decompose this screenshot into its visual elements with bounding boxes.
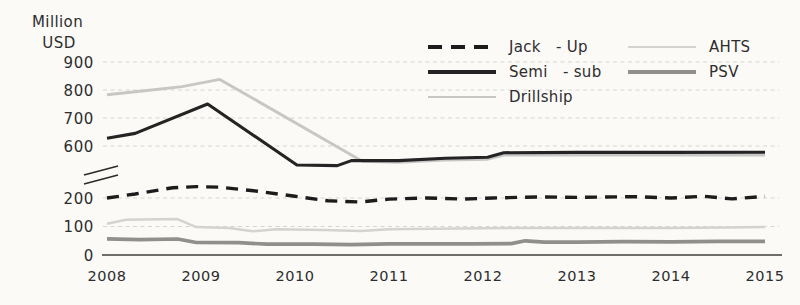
axis-break-mark-2 (84, 175, 118, 184)
y-axis-unit-line-2: USD (24, 34, 94, 52)
y-tick-label-700: 700 (64, 110, 94, 128)
x-tick-label-2013: 2013 (558, 268, 597, 284)
y-tick-label-900: 900 (64, 54, 94, 72)
x-tick-label-2009: 2009 (182, 268, 221, 284)
y-tick-label-0: 0 (84, 247, 94, 265)
y-tick-label-600: 600 (64, 138, 94, 156)
chart-canvas: 9008007006002001000200820092010201120122… (0, 0, 800, 305)
x-tick-label-2014: 2014 (652, 268, 691, 284)
y-tick-label-200: 200 (64, 190, 94, 208)
y-tick-label-100: 100 (64, 218, 94, 236)
figure-vessel-rates-chart: 9008007006002001000200820092010201120122… (0, 0, 800, 305)
series-line-psv (107, 239, 765, 245)
y-axis-unit-line-1: Million (24, 13, 102, 31)
y-tick-label-800: 800 (64, 82, 94, 100)
series-line-drillship (107, 79, 765, 162)
x-tick-label-2012: 2012 (464, 268, 503, 284)
series-line-ahts (107, 219, 765, 231)
x-tick-label-2011: 2011 (370, 268, 409, 284)
x-tick-label-2008: 2008 (88, 268, 127, 284)
axis-break-mark-1 (84, 166, 118, 175)
x-tick-label-2010: 2010 (276, 268, 315, 284)
series-line-jack-up (107, 187, 765, 202)
x-tick-label-2015: 2015 (746, 268, 785, 284)
